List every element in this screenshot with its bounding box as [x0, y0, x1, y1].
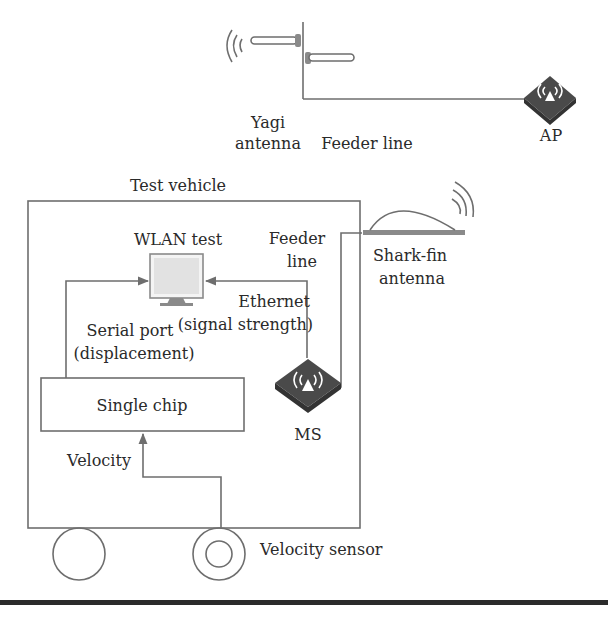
yagi-element-upper [251, 37, 297, 44]
yagi-antenna [227, 22, 354, 99]
single-chip-label: Single chip [97, 396, 188, 415]
wheel-left [53, 528, 105, 580]
velocity-sensor-label: Velocity sensor [259, 540, 383, 559]
ethernet-label-line1: Ethernet [238, 292, 310, 311]
serial-port-label-line2: (displacement) [74, 344, 195, 363]
serial-port-label-line1: Serial port [87, 321, 174, 340]
feeder-line-vehicle-label-line2: line [287, 252, 317, 271]
wlan-test-diagram: Yagi antenna Feeder line AP Test vehicle… [0, 0, 608, 617]
yagi-label-line2: antenna [235, 134, 301, 153]
shark-fin-label-line2: antenna [379, 269, 445, 288]
yagi-label-line1: Yagi [250, 113, 285, 132]
radio-waves-icon [227, 30, 242, 62]
yagi-clamp-upper [295, 34, 301, 47]
ethernet-label-line2: (signal strength) [178, 315, 313, 334]
ap-label: AP [539, 126, 563, 145]
feeder-line-vehicle-label-line1: Feeder [269, 229, 326, 248]
monitor-icon [150, 254, 203, 306]
feeder-line-vehicle [330, 233, 362, 394]
ground-bar [0, 600, 608, 605]
wlan-test-label: WLAN test [134, 230, 223, 249]
test-vehicle-label: Test vehicle [130, 176, 226, 195]
feeder-line-label: Feeder line [321, 134, 413, 153]
ms-router-icon [275, 359, 341, 413]
velocity-arrow [143, 434, 221, 528]
shark-fin-antenna-icon [363, 182, 473, 235]
shark-fin-label-line1: Shark-fin [373, 246, 447, 265]
velocity-sensor-wheel-icon [193, 528, 245, 580]
velocity-label: Velocity [66, 451, 131, 470]
ap-router-icon [524, 76, 576, 125]
yagi-element-lower [309, 54, 354, 61]
ms-label: MS [294, 425, 321, 444]
